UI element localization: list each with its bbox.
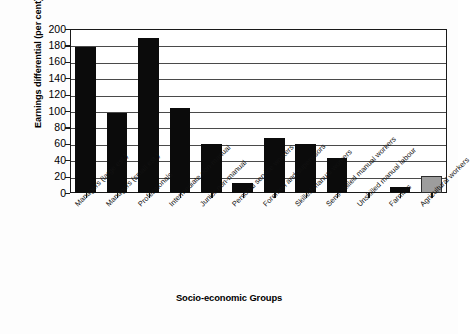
y-axis-tick-label: 200	[20, 24, 66, 35]
x-axis-title: Socio-economic Groups	[0, 292, 458, 303]
y-axis-tick-label: 60	[20, 138, 66, 149]
y-axis-tick-label: 0	[20, 188, 66, 199]
y-axis-tick-label: 100	[20, 106, 66, 117]
y-axis-tick-label: 180	[20, 40, 66, 51]
y-axis-tick-label: 120	[20, 89, 66, 100]
y-axis-tick-label: 20	[20, 171, 66, 182]
y-axis-tick-label: 160	[20, 56, 66, 67]
y-axis-tick-label: 140	[20, 73, 66, 84]
y-axis-tick-label: 40	[20, 155, 66, 166]
bar	[75, 47, 96, 193]
y-axis-tick-mark	[65, 193, 70, 194]
y-axis-tick-label: 80	[20, 122, 66, 133]
